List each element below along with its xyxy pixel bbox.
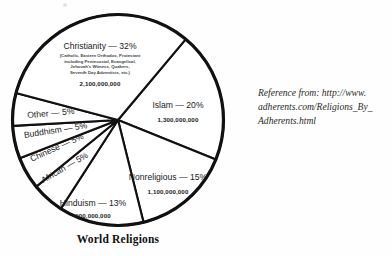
- slice-label-nonreligious: Nonreligious — 15%: [129, 172, 208, 182]
- chart-title: World Religions: [0, 233, 236, 245]
- reference-note: Reference from: http://www. adherents.co…: [258, 86, 390, 128]
- slice-sublabel-christianity-2: including Pentecostal, Evangelical,: [64, 59, 136, 64]
- pie-chart: Christianity — 32% (Catholic, Eastern Or…: [0, 0, 392, 256]
- slice-label-islam: Islam — 20%: [152, 100, 203, 110]
- slice-label-hinduism: Hinduism — 13%: [60, 198, 127, 208]
- slice-label-christianity: Christianity — 32%: [63, 41, 136, 51]
- slice-sublabel-christianity-4: Seventh Day Adventists, etc.): [70, 70, 131, 75]
- chart-canvas: Christianity — 32% (Catholic, Eastern Or…: [0, 0, 392, 256]
- slice-value-islam: 1,300,000,000: [158, 116, 199, 123]
- slice-sublabel-christianity-3: Jehovah's Witness, Quakers,: [70, 64, 129, 69]
- slice-sublabel-christianity-1: (Catholic, Eastern Orthodox, Protestant: [60, 53, 141, 58]
- slice-value-christianity: 2,100,000,000: [80, 80, 121, 87]
- reference-line-2: adherents.com/Religions_By_: [258, 100, 390, 114]
- slice-value-nonreligious: 1,100,000,000: [148, 188, 189, 195]
- slice-value-hinduism: 900,000,000: [75, 212, 111, 219]
- reference-line-1: Reference from: http://www.: [258, 86, 390, 100]
- reference-line-3: Adherents.html: [258, 114, 390, 128]
